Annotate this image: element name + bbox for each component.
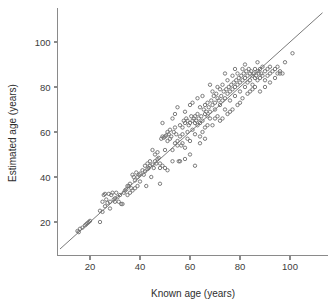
data-point: [175, 133, 178, 136]
data-point: [236, 72, 239, 75]
data-point: [233, 67, 236, 70]
data-point: [221, 83, 224, 86]
data-point: [223, 97, 226, 100]
data-point: [176, 106, 179, 109]
data-point: [156, 151, 159, 154]
data-point: [188, 153, 191, 156]
data-point: [228, 99, 231, 102]
y-tick-label: 60: [40, 127, 51, 138]
data-point: [241, 67, 244, 70]
data-point: [171, 148, 174, 151]
data-point: [183, 157, 186, 160]
data-point: [215, 92, 218, 95]
y-tick-label: 80: [40, 82, 51, 93]
data-point: [238, 101, 241, 104]
data-point: [105, 198, 108, 201]
data-point: [183, 146, 186, 149]
x-tick-label: 60: [185, 261, 196, 272]
data-point: [243, 63, 246, 66]
data-point: [191, 101, 194, 104]
scatter-plot-figure: 20406080100 20406080100 Known age (years…: [0, 0, 334, 305]
data-point: [231, 74, 234, 77]
data-point: [211, 90, 214, 93]
data-point: [176, 139, 179, 142]
data-point: [176, 144, 179, 147]
data-point: [196, 112, 199, 115]
data-point: [213, 101, 216, 104]
data-point: [233, 94, 236, 97]
data-point: [211, 124, 214, 127]
data-point: [268, 81, 271, 84]
data-point: [263, 79, 266, 82]
data-point: [198, 135, 201, 138]
data-point: [163, 148, 166, 151]
data-point: [173, 112, 176, 115]
data-point: [221, 117, 224, 120]
data-point: [166, 169, 169, 172]
data-point: [178, 124, 181, 127]
data-point: [208, 117, 211, 120]
data-point: [183, 110, 186, 113]
data-point: [136, 184, 139, 187]
data-point: [223, 108, 226, 111]
data-point: [263, 85, 266, 88]
data-point: [173, 126, 176, 129]
data-point: [207, 106, 210, 109]
data-point: [196, 97, 199, 100]
data-point: [206, 101, 209, 104]
data-point: [198, 142, 201, 145]
data-point: [226, 79, 229, 82]
data-point: [161, 121, 164, 124]
data-point: [216, 115, 219, 118]
data-point: [171, 117, 174, 120]
data-point: [186, 130, 189, 133]
data-point: [193, 133, 196, 136]
data-point: [181, 133, 184, 136]
x-tick-label: 80: [235, 261, 246, 272]
data-point: [193, 164, 196, 167]
data-point: [145, 184, 148, 187]
data-point: [223, 72, 226, 75]
x-tick-label: 40: [135, 261, 146, 272]
data-point: [158, 182, 161, 185]
data-point: [138, 180, 141, 183]
data-point: [152, 166, 155, 169]
data-point: [208, 83, 211, 86]
y-tick-label: 20: [40, 217, 51, 228]
data-point: [201, 130, 204, 133]
x-axis-ticks: 20406080100: [85, 256, 298, 272]
data-point: [258, 90, 261, 93]
data-point: [268, 65, 271, 68]
data-point: [101, 200, 104, 203]
data-point: [238, 90, 241, 93]
data-point: [253, 85, 256, 88]
data-point: [171, 160, 174, 163]
data-point: [200, 115, 203, 118]
y-tick-label: 100: [35, 37, 51, 48]
data-point: [151, 148, 154, 151]
data-point: [210, 99, 213, 102]
data-point: [291, 52, 294, 55]
data-point: [208, 110, 211, 113]
data-point: [220, 94, 223, 97]
data-point: [241, 97, 244, 100]
data-point: [248, 79, 251, 82]
data-point: [108, 207, 111, 210]
data-point: [98, 220, 101, 223]
data-point: [218, 88, 221, 91]
data-point: [243, 85, 246, 88]
y-axis-ticks: 20406080100: [35, 37, 58, 228]
data-point: [150, 175, 153, 178]
y-axis-title: Estimated age (years): [7, 84, 18, 182]
data-point: [103, 205, 106, 208]
data-point: [256, 61, 259, 64]
x-tick-label: 100: [282, 261, 298, 272]
data-point: [276, 65, 279, 68]
y-tick-label: 40: [40, 172, 51, 183]
data-point: [115, 191, 118, 194]
data-point: [283, 61, 286, 64]
data-point: [201, 94, 204, 97]
plot-canvas: 20406080100 20406080100 Known age (years…: [0, 0, 334, 305]
x-tick-label: 20: [85, 261, 96, 272]
data-point: [206, 124, 209, 127]
